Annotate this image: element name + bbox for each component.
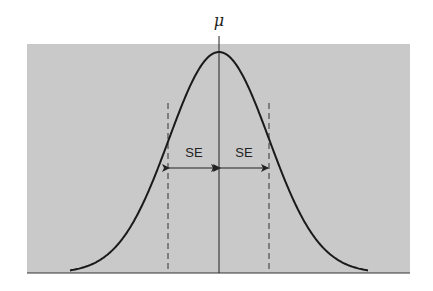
left-se-label: SE [185, 145, 203, 160]
diagram-canvas: μ SE SE [0, 0, 433, 291]
mean-symbol: μ [214, 11, 224, 30]
normal-distribution-diagram: μ SE SE [0, 0, 433, 291]
right-se-label: SE [235, 145, 253, 160]
